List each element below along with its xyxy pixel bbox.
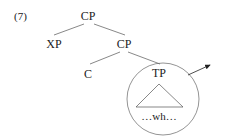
branch-cp-cp: [94, 24, 125, 35]
wh-content: …wh…: [141, 110, 176, 122]
arrow-icon: [188, 65, 210, 75]
node-root-cp: CP: [81, 9, 96, 23]
branch-cp-tp: [128, 52, 160, 64]
syntax-tree-diagram: (7) CP XP CP C TP …wh…: [0, 0, 227, 136]
node-cp-inner: CP: [117, 37, 132, 51]
example-number: (7): [14, 10, 27, 23]
node-tp: TP: [152, 66, 166, 80]
branch-cp-xp: [54, 24, 84, 35]
subtree-triangle: [136, 84, 183, 107]
node-c: C: [84, 67, 92, 81]
branch-cp-c: [90, 52, 120, 64]
node-xp: XP: [46, 37, 62, 51]
